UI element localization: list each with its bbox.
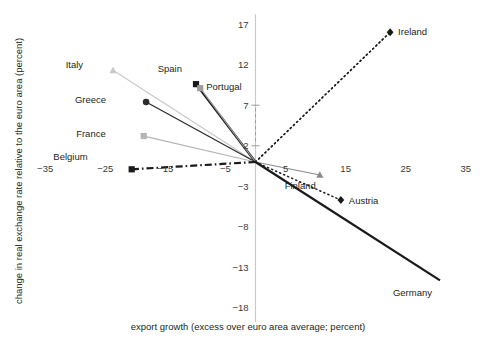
y-tick-label: −3 (238, 181, 249, 192)
y-tick-label: 7 (243, 100, 248, 111)
marker-greece (143, 99, 150, 106)
x-tick-label: 5 (283, 163, 288, 174)
series-label-greece: Greece (75, 94, 106, 105)
series-label-portugal: Portugal (206, 81, 241, 92)
x-tick-label: −35 (37, 163, 53, 174)
y-tick-label: −13 (232, 262, 248, 273)
chart-container: −35−25−15−55152535171272−3−8−13−18 Italy… (0, 0, 496, 342)
x-tick-label: −15 (157, 163, 173, 174)
series-label-france: France (76, 128, 106, 139)
scatter-chart: −35−25−15−55152535171272−3−8−13−18 Italy… (0, 0, 496, 342)
marker-belgium (129, 166, 135, 172)
y-tick-label: 2 (243, 140, 248, 151)
series-label-spain: Spain (158, 63, 182, 74)
x-tick-label: 15 (340, 163, 351, 174)
marker-france (141, 133, 147, 139)
x-tick-label: −5 (220, 163, 231, 174)
series-label-belgium: Belgium (53, 151, 87, 162)
x-tick-label: 35 (461, 163, 472, 174)
series-label-finland: Finland (285, 180, 316, 191)
x-tick-label: −25 (97, 163, 113, 174)
series-label-ireland: Ireland (398, 26, 427, 37)
y-tick-label: 12 (238, 59, 249, 70)
y-axis-title: change in real exchange rate relative to… (13, 38, 24, 304)
x-tick-label: 25 (400, 163, 411, 174)
marker-portugal (197, 85, 203, 91)
y-tick-label: −18 (232, 302, 248, 313)
series-label-germany: Germany (393, 287, 432, 298)
series-label-austria: Austria (349, 195, 379, 206)
series-label-italy: Italy (66, 59, 84, 70)
y-tick-label: −8 (238, 221, 249, 232)
y-tick-label: 17 (238, 19, 249, 30)
x-axis-title: export growth (excess over euro area ave… (131, 321, 365, 332)
